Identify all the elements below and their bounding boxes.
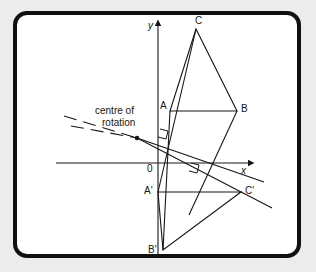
point-label-c-prime: C': [245, 186, 254, 197]
chord-a-to-b-prime: [163, 111, 170, 250]
centre-of-rotation-label-line1: centre of: [95, 106, 134, 117]
point-label-b-prime: B': [148, 245, 157, 256]
triangle-a-prime-b-prime-c-prime: [158, 192, 241, 250]
perpendicular-bisector-2-solid: [137, 138, 272, 208]
origin-label: 0: [147, 164, 153, 175]
y-axis-label: y: [148, 21, 153, 32]
point-label-a-prime: A': [144, 186, 153, 197]
diagram-canvas: [0, 0, 316, 272]
point-label-b: B: [241, 104, 248, 115]
right-angle-marker-upper: [158, 129, 168, 139]
point-label-c: C: [195, 16, 202, 27]
centre-of-rotation-point: [135, 136, 140, 141]
point-label-a: A: [160, 101, 167, 112]
centre-of-rotation-label-line2: rotation: [102, 118, 135, 129]
x-axis-label: x: [241, 166, 246, 177]
figure-root: y x 0 centre of rotation A B C A' B' C': [0, 0, 316, 272]
diagram-svg: [0, 0, 316, 272]
